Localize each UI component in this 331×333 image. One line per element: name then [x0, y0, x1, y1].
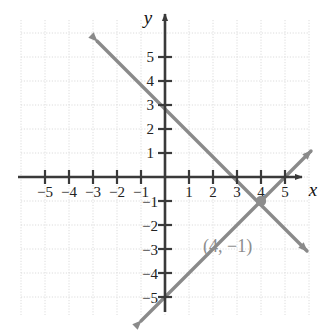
y-tick-label: 5	[147, 49, 155, 65]
x-tick-label: −5	[37, 184, 53, 200]
x-tick-label: 3	[233, 184, 241, 200]
y-tick-label: 3	[147, 97, 155, 113]
y-tick-label: −3	[142, 242, 158, 258]
y-tick-label: −5	[142, 290, 158, 306]
intersection-point-label: (4, −1)	[203, 236, 252, 257]
y-tick-label: 1	[147, 145, 155, 161]
axis-lines	[18, 14, 302, 312]
x-tick-label: −2	[109, 184, 125, 200]
coordinate-plane-figure: −5 −4 −3 −2 −1 1 2 3 4 5 5 4 3 2 1 −1 −2…	[0, 0, 331, 333]
x-tick-labels: −5 −4 −3 −2 −1 1 2 3 4 5	[37, 184, 289, 200]
intersection-point-marker	[256, 196, 266, 206]
y-axis-label: y	[142, 7, 153, 28]
y-tick-label: 4	[147, 73, 155, 89]
y-tick-label: 2	[147, 121, 155, 137]
x-tick-label: 2	[209, 184, 217, 200]
x-tick-label: 1	[185, 184, 193, 200]
x-tick-label: −3	[85, 184, 101, 200]
x-tick-label: −4	[61, 184, 77, 200]
series-descending-line	[97, 41, 307, 251]
y-tick-label: −4	[142, 266, 158, 282]
x-tick-label: 5	[281, 184, 289, 200]
x-axis-label: x	[308, 179, 318, 200]
graph-canvas: −5 −4 −3 −2 −1 1 2 3 4 5 5 4 3 2 1 −1 −2…	[0, 0, 331, 333]
y-tick-label: −2	[142, 218, 158, 234]
y-tick-label: −1	[142, 194, 158, 210]
